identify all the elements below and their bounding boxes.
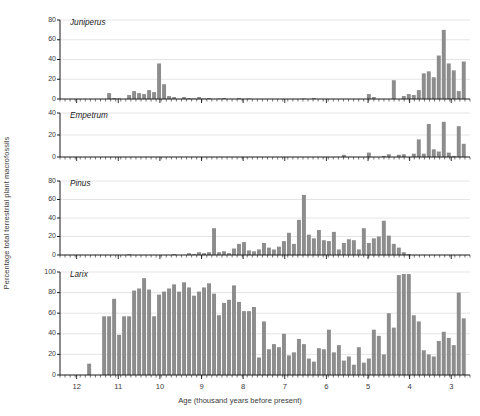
x-tick-label: 6 — [311, 382, 341, 391]
x-tick-label: 11 — [103, 382, 133, 391]
y-tick-label: 0 — [28, 95, 56, 102]
y-tick-label: 80 — [28, 288, 56, 295]
y-tick-label: 40 — [28, 214, 56, 221]
x-tick-label: 3 — [436, 382, 466, 391]
x-tick-label: 7 — [270, 382, 300, 391]
x-tick-label: 12 — [62, 382, 92, 391]
y-tick-label: 80 — [28, 16, 56, 23]
panel-taxon-label: Pinus — [70, 179, 90, 188]
y-tick-label: 0 — [28, 251, 56, 258]
x-tick-label: 4 — [395, 382, 425, 391]
x-tick-label: 9 — [187, 382, 217, 391]
y-tick-label: 20 — [28, 75, 56, 82]
x-tick-label: 8 — [228, 382, 258, 391]
y-tick-label: 20 — [28, 350, 56, 357]
x-tick-label: 10 — [145, 382, 175, 391]
x-tick-label: 5 — [353, 382, 383, 391]
y-tick-label: 100 — [28, 268, 56, 275]
y-tick-label: 80 — [28, 177, 56, 184]
stratigraphic-macrofossil-chart: Percentage total terrestrial plant macro… — [0, 0, 480, 416]
y-tick-label: 0 — [28, 371, 56, 378]
y-tick-label: 20 — [28, 232, 56, 239]
plot-canvas — [0, 0, 480, 416]
y-tick-label: 20 — [28, 131, 56, 138]
y-tick-label: 40 — [28, 55, 56, 62]
y-tick-label: 60 — [28, 309, 56, 316]
panel-taxon-label: Empetrum — [70, 111, 108, 120]
y-tick-label: 60 — [28, 35, 56, 42]
panel-taxon-label: Juniperus — [70, 18, 106, 27]
y-tick-label: 0 — [28, 153, 56, 160]
panel-taxon-label: Larix — [70, 270, 88, 279]
y-tick-label: 40 — [28, 329, 56, 336]
y-tick-label: 40 — [28, 109, 56, 116]
y-tick-label: 60 — [28, 195, 56, 202]
